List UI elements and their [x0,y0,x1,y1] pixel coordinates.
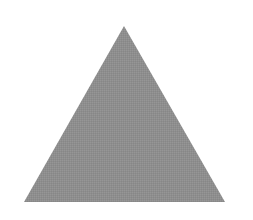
diagram-canvas [0,0,253,220]
triangle-shape [24,26,225,202]
triangle-graphic [0,0,253,220]
